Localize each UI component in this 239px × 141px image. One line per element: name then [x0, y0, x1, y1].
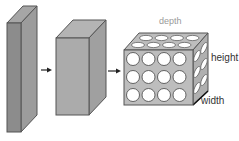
- neuron-volume: [124, 33, 209, 105]
- depth-label: depth: [159, 16, 182, 26]
- width-label: width: [201, 95, 224, 106]
- slab-front-face: [7, 23, 21, 132]
- arrow-icon: [41, 68, 52, 73]
- slab-side-face: [21, 6, 37, 132]
- middle-block: [56, 20, 106, 115]
- diagram-canvas: [0, 0, 239, 141]
- thin-slab: [7, 6, 37, 132]
- block-front-face: [56, 38, 89, 115]
- height-label: height: [211, 52, 238, 63]
- arrow-icon: [108, 69, 121, 74]
